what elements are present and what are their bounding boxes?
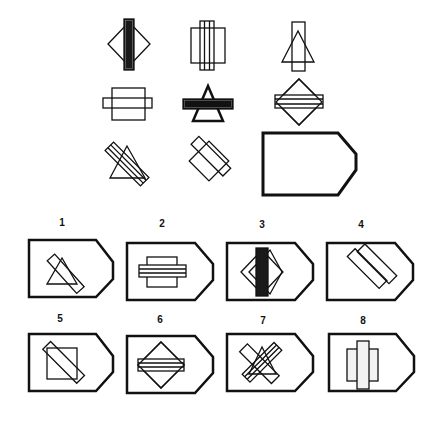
option-6[interactable]	[127, 336, 213, 393]
matrix-cell-r3c1	[105, 142, 149, 186]
option-4[interactable]	[327, 243, 413, 300]
option-1[interactable]	[29, 240, 113, 297]
matrix-cell-r1c2	[191, 21, 225, 70]
option-5[interactable]	[29, 334, 113, 391]
option-2-label: 2	[152, 218, 172, 229]
option-3[interactable]	[227, 243, 313, 300]
answer-slot	[263, 133, 356, 195]
option-2[interactable]	[127, 243, 213, 300]
option-8[interactable]	[329, 334, 414, 391]
matrix-cell-r1c3	[282, 22, 314, 71]
matrix-cell-r2c3	[275, 79, 323, 125]
matrix-cell-r2c1	[103, 88, 152, 120]
option-8-label: 8	[353, 315, 373, 326]
option-6-label: 6	[150, 314, 170, 325]
option-1-label: 1	[52, 217, 72, 228]
matrix-cell-r3c2	[189, 136, 230, 180]
puzzle-canvas	[0, 0, 442, 421]
option-7[interactable]	[227, 334, 313, 391]
option-7-label: 7	[253, 315, 273, 326]
option-5-label: 5	[50, 313, 70, 324]
matrix-cell-r2c2	[183, 86, 233, 121]
option-4-label: 4	[351, 219, 371, 230]
matrix-cell-r1c1	[108, 19, 150, 70]
option-3-label: 3	[252, 219, 272, 230]
